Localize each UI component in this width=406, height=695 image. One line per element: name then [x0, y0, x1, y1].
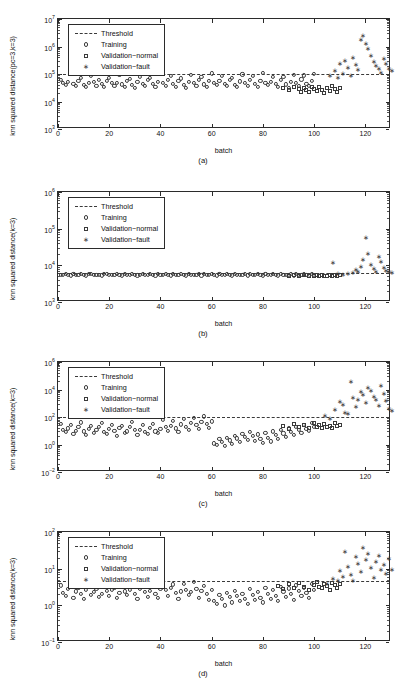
data-point-circle [79, 592, 83, 596]
y-axis-tick-label: 106 [44, 42, 55, 51]
data-point-circle [312, 72, 316, 76]
y-axis-minor-tick [387, 230, 389, 231]
data-point-star: ∗ [373, 396, 378, 401]
y-axis-minor-tick [58, 620, 60, 621]
y-axis-minor-tick [387, 108, 389, 109]
y-axis-tick [386, 129, 390, 130]
data-point-circle [117, 591, 121, 595]
data-point-circle [76, 425, 80, 429]
y-axis-minor-tick [58, 455, 60, 456]
y-axis-minor-tick [58, 392, 60, 393]
y-axis-minor-tick [58, 198, 60, 199]
y-axis-minor-tick [387, 455, 389, 456]
x-axis-tick [263, 637, 264, 641]
data-point-circle [245, 602, 249, 606]
y-axis-minor-tick [58, 88, 60, 89]
legend-row: Validation−normal [73, 393, 158, 404]
y-axis-minor-tick [387, 25, 389, 26]
x-axis-tick-label: 80 [259, 303, 267, 310]
y-axis-minor-tick [387, 453, 389, 454]
y-axis-minor-tick [58, 459, 60, 460]
y-axis-minor-tick [58, 543, 60, 544]
y-axis-minor-tick [387, 392, 389, 393]
x-axis-tick [365, 297, 366, 301]
data-point-star: ∗ [340, 573, 345, 578]
y-axis-minor-tick [58, 200, 60, 201]
data-point-circle [312, 587, 316, 591]
x-axis-tick [109, 637, 110, 641]
y-axis-minor-tick [387, 104, 389, 105]
data-point-circle [146, 595, 150, 599]
data-point-circle [204, 592, 208, 596]
data-point-circle [199, 589, 203, 593]
y-axis-minor-tick [387, 237, 389, 238]
y-axis-minor-tick [387, 240, 389, 241]
y-axis-minor-tick [58, 547, 60, 548]
legend: ThresholdTrainingValidation−normal∗Valid… [68, 24, 165, 76]
y-axis-minor-tick [58, 66, 60, 67]
data-point-star: ∗ [363, 557, 368, 562]
y-axis-minor-tick [58, 237, 60, 238]
x-axis-tick-label: 120 [360, 473, 372, 480]
x-axis-tick [212, 532, 213, 536]
data-point-star: ∗ [342, 58, 347, 63]
legend-key-training [73, 385, 99, 389]
data-point-circle [138, 428, 142, 432]
legend-row: ∗Validation−fault [73, 61, 158, 72]
data-point-circle [251, 434, 255, 438]
x-axis-label: batch [57, 146, 390, 155]
data-point-star: ∗ [363, 234, 368, 239]
legend-key-threshold [73, 546, 99, 547]
data-point-square [292, 422, 296, 426]
data-point-circle [299, 431, 303, 435]
y-axis-minor-tick [58, 613, 60, 614]
data-point-square [307, 426, 311, 430]
x-axis-tick [314, 362, 315, 366]
y-axis-minor-tick [58, 540, 60, 541]
data-point-circle [181, 582, 185, 586]
legend-label: Threshold [99, 202, 133, 211]
data-point-circle [207, 598, 211, 602]
data-point-circle [94, 83, 98, 87]
y-axis-minor-tick [58, 218, 60, 219]
y-axis-minor-tick [387, 280, 389, 281]
data-point-circle [299, 77, 303, 81]
y-axis-minor-tick [387, 82, 389, 83]
data-point-square [307, 274, 311, 278]
data-point-square [307, 588, 311, 592]
y-axis-minor-tick [58, 203, 60, 204]
x-axis-tick-label: 20 [105, 643, 113, 650]
data-point-star: ∗ [381, 562, 386, 567]
y-axis-minor-tick [58, 370, 60, 371]
data-point-star: ∗ [378, 383, 383, 388]
data-point-square [287, 582, 291, 586]
y-axis-minor-tick [387, 49, 389, 50]
x-axis-tick [263, 532, 264, 536]
data-point-circle [107, 594, 111, 598]
x-axis-tick [58, 297, 59, 301]
x-axis-tick [160, 297, 161, 301]
legend-key-validation-normal [73, 54, 99, 58]
legend-row: Validation−normal [73, 50, 158, 61]
y-axis-minor-tick [387, 363, 389, 364]
data-point-star: ∗ [332, 406, 337, 411]
y-axis-minor-tick [387, 611, 389, 612]
data-point-circle [115, 596, 119, 600]
data-point-star: ∗ [358, 264, 363, 269]
x-axis-tick [160, 532, 161, 536]
y-axis-minor-tick [387, 418, 389, 419]
legend-row: Validation−normal [73, 563, 158, 574]
y-axis-minor-tick [387, 620, 389, 621]
x-axis-tick [212, 467, 213, 471]
data-point-square [276, 584, 280, 588]
data-point-circle [302, 73, 306, 77]
y-axis-minor-tick [58, 588, 60, 589]
y-axis-minor-tick [387, 421, 389, 422]
data-point-star: ∗ [360, 544, 365, 549]
y-axis-minor-tick [58, 398, 60, 399]
data-point-circle [284, 595, 288, 599]
data-point-square [322, 91, 326, 95]
legend-row: ∗Validation−fault [73, 234, 158, 245]
x-axis-tick-label: 120 [360, 643, 372, 650]
y-axis-tick-label: 103 [44, 297, 55, 306]
